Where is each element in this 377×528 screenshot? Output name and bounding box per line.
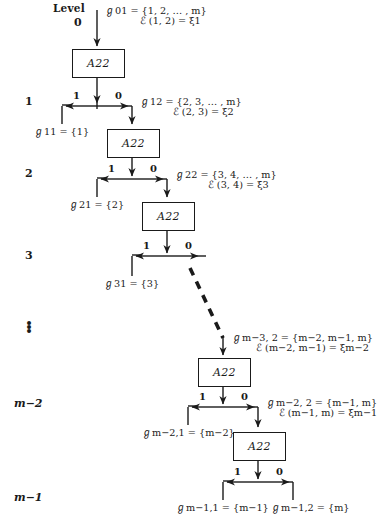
- branch-label-one-2: 1: [108, 164, 115, 175]
- level-column-header: Level: [53, 3, 85, 14]
- annotation-level-0: ℊ01 = {1, 2, … , m} ℰ (1, 2) = ξ1: [105, 6, 207, 27]
- branch-label-one-m1: 1: [234, 467, 241, 478]
- annotation-level-m-2: ℊm−2, 2 = {m−1, m} ℰ (m−1, m) = ξm−1: [266, 398, 377, 419]
- level-label-m-1: m−1: [14, 492, 43, 504]
- annotation-script-line: ℰ (2, 3) = ξ2: [140, 107, 242, 117]
- a22-box-label: A22: [143, 203, 194, 230]
- a22-box-4[interactable]: A22: [233, 432, 286, 461]
- annotation-script-line: ℰ (1, 2) = ξ1: [105, 16, 207, 26]
- a22-box-2[interactable]: A22: [142, 202, 195, 231]
- a22-box-label: A22: [108, 130, 159, 157]
- a22-box-label: A22: [234, 433, 285, 460]
- level-label-0: 0: [74, 17, 82, 29]
- level-label-2: 2: [25, 168, 33, 180]
- branch-label-zero-1: 0: [115, 91, 122, 102]
- branch-label-zero-m2: 0: [241, 392, 248, 403]
- annotation-level-2: ℊ22 = {3, 4, … , m} ℰ (3, 4) = ξ3: [175, 170, 277, 191]
- leaf-label-gm11: ℊm−1,1 = {m−1}: [176, 503, 269, 513]
- annotation-script-line: ℰ (m−2, m−1) = ξm−2: [232, 343, 373, 353]
- annotation-level-m-3: ℊm−3, 2 = {m−2, m−1, m} ℰ (m−2, m−1) = ξ…: [232, 333, 373, 354]
- leaf-label-g21: ℊ21 = {2}: [69, 200, 124, 210]
- level-ellipsis: •••: [24, 322, 34, 334]
- annotation-level-1: ℊ12 = {2, 3, … , m} ℰ (2, 3) = ξ2: [140, 97, 242, 118]
- branch-label-one-3: 1: [143, 241, 150, 252]
- branch-label-zero-3: 0: [185, 241, 192, 252]
- leaf-label-g11: ℊ11 = {1}: [34, 127, 89, 137]
- leaf-label-gm21: ℊm−2,1 = {m−2}: [142, 428, 235, 438]
- a22-box-0[interactable]: A22: [72, 49, 125, 78]
- leaf-label-gm12: ℊm−1,2 = {m}: [271, 503, 350, 513]
- branch-label-one-1: 1: [73, 91, 80, 102]
- a22-box-1[interactable]: A22: [107, 129, 160, 158]
- leaf-label-g31: ℊ31 = {3}: [104, 279, 159, 289]
- a22-box-label: A22: [199, 359, 250, 386]
- branch-label-zero-2: 0: [150, 164, 157, 175]
- annotation-script-line: ℰ (m−1, m) = ξm−1: [266, 408, 377, 418]
- a22-box-3[interactable]: A22: [198, 358, 251, 387]
- a22-box-label: A22: [73, 50, 124, 77]
- level-label-m-2: m−2: [14, 398, 43, 410]
- annotation-script-line: ℰ (3, 4) = ξ3: [175, 180, 277, 190]
- branch-label-one-m2: 1: [199, 392, 206, 403]
- branch-label-zero-m1: 0: [276, 467, 283, 478]
- level-label-3: 3: [25, 250, 33, 262]
- level-label-1: 1: [25, 96, 33, 108]
